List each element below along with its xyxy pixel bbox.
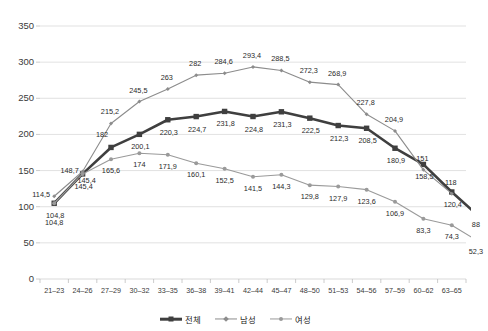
- y-axis-tick-label: 300: [2, 56, 34, 67]
- data-point-label: 272,3: [295, 66, 323, 75]
- data-point-label: 200,1: [126, 142, 154, 151]
- x-axis-tick-label: 48–50: [294, 286, 326, 295]
- data-point-label: 120,4: [439, 200, 467, 209]
- data-point-label: 148,7: [56, 166, 84, 175]
- data-point-label: 114,5: [27, 190, 55, 199]
- data-point-label: 151: [408, 154, 436, 163]
- x-axis-tick-label: 45–47: [265, 286, 297, 295]
- y-axis-tick-label: 150: [2, 165, 34, 176]
- data-point-label: 141,5: [239, 184, 267, 193]
- data-point-label: 180,9: [382, 156, 410, 165]
- legend-item-2[interactable]: 남성: [215, 313, 256, 325]
- y-axis-tick-label: 250: [2, 92, 34, 103]
- legend-label: 남성: [240, 313, 256, 325]
- x-axis-tick-label: 27–29: [95, 286, 127, 295]
- data-point-label: 222,5: [297, 126, 325, 135]
- y-axis-tick-label: 50: [2, 237, 34, 248]
- x-axis-tick-label: 33–35: [152, 286, 184, 295]
- data-point-label: 165,6: [97, 166, 125, 175]
- data-point-label: 245,5: [124, 86, 152, 95]
- data-point-label: 288,5: [266, 54, 294, 63]
- legend-item-1[interactable]: 전체: [160, 313, 201, 325]
- data-point-label: 215,2: [96, 107, 124, 116]
- data-point-label: 182: [88, 130, 116, 139]
- y-axis-tick-label: 200: [2, 128, 34, 139]
- x-axis-tick-label: 42–44: [237, 286, 269, 295]
- data-point-label: 268,9: [323, 69, 351, 78]
- x-axis-tick-label: 57–59: [379, 286, 411, 295]
- data-point-label: 284,6: [210, 57, 238, 66]
- data-point-label: 152,5: [211, 176, 239, 185]
- data-point-label: 88: [462, 220, 488, 229]
- x-axis-tick-label: 51–53: [322, 286, 354, 295]
- y-axis-tick-label: 100: [2, 201, 34, 212]
- x-axis-tick-label: 21–23: [38, 286, 70, 295]
- legend-key-diamond-icon: [215, 315, 237, 324]
- data-point-label: 74,3: [438, 232, 466, 241]
- y-axis-tick-label: 0: [2, 273, 34, 284]
- data-point-label: 231,8: [212, 119, 240, 128]
- data-point-label: 224,7: [183, 125, 211, 134]
- legend-label: 여성: [295, 313, 311, 325]
- y-axis-tick-label: 350: [2, 20, 34, 31]
- legend-label: 전체: [185, 313, 201, 325]
- data-point-label: 145,4: [73, 176, 101, 185]
- data-point-label: 293,4: [238, 51, 266, 60]
- data-point-label: 83,3: [409, 226, 437, 235]
- data-point-label: 158,5: [410, 172, 438, 181]
- x-axis-tick-label: 63–65: [436, 286, 468, 295]
- data-point-label: 106,9: [381, 209, 409, 218]
- legend-key-square-icon: [160, 315, 182, 324]
- data-point-label: 129,8: [296, 192, 324, 201]
- x-axis-tick-label: 24–26: [67, 286, 99, 295]
- data-point-label: 231,3: [268, 120, 296, 129]
- data-point-label: 282: [181, 59, 209, 68]
- data-point-label: 174: [125, 160, 153, 169]
- data-point-label: 212,3: [325, 134, 353, 143]
- data-point-label: 208,5: [354, 136, 382, 145]
- data-point-label: 118: [437, 178, 465, 187]
- x-axis-tick-label: 39–41: [209, 286, 241, 295]
- data-point-label: 160,1: [182, 170, 210, 179]
- x-axis-tick-label: 60–62: [407, 286, 439, 295]
- data-point-label: 127,9: [324, 194, 352, 203]
- data-point-label: 204,9: [380, 115, 408, 124]
- data-point-label: 227,8: [352, 98, 380, 107]
- data-point-label: 144,3: [267, 182, 295, 191]
- data-point-label: 171,9: [154, 162, 182, 171]
- data-point-label: 263: [153, 73, 181, 82]
- x-axis-tick-label: 36–38: [180, 286, 212, 295]
- data-point-label: 104,8: [40, 218, 68, 227]
- x-axis-tick-label: 54–56: [351, 286, 383, 295]
- legend-item-3[interactable]: 여성: [270, 313, 311, 325]
- data-point-label: 123,6: [353, 197, 381, 206]
- chart-legend: 전체남성여성: [0, 313, 471, 325]
- data-point-label: 224,8: [240, 125, 268, 134]
- x-axis-tick-label: 30–32: [123, 286, 155, 295]
- legend-key-circle-icon: [270, 315, 292, 324]
- data-point-label: 220,3: [155, 128, 183, 137]
- data-point-label: 52,3: [462, 247, 488, 256]
